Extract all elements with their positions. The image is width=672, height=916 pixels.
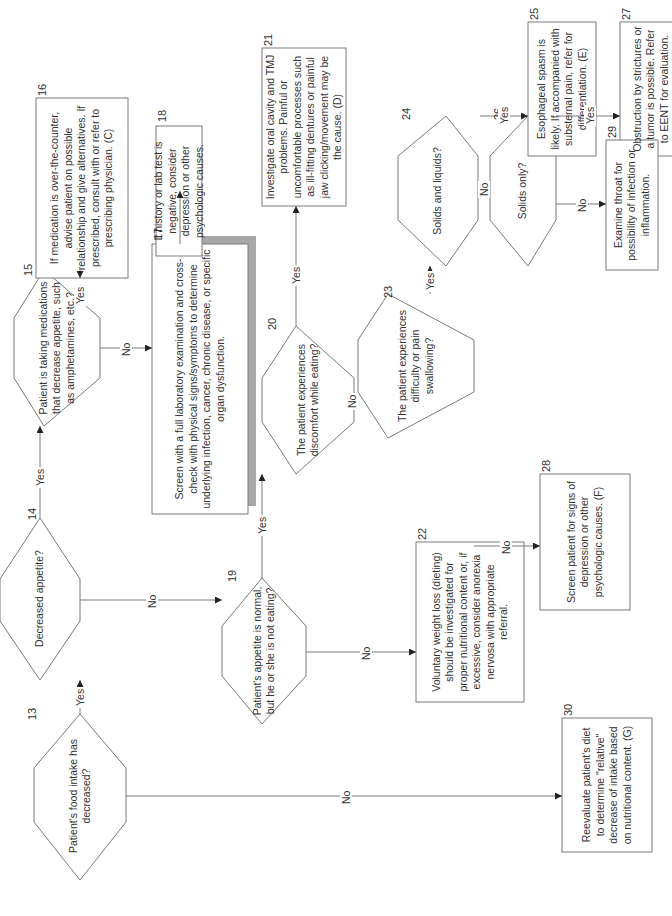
edge-label-20-23: No (346, 393, 358, 410)
node-number-19: 19 (226, 570, 238, 582)
node-number-30: 30 (562, 704, 574, 716)
edge-label-26-29: No (576, 197, 588, 214)
edge-label-14-15: Yes (34, 467, 46, 488)
edge-label-13-14: Yes (74, 687, 86, 708)
edge-label-24-25: Yes (498, 105, 510, 126)
edge-label-15-16: Yes (74, 285, 86, 306)
decision-15-text: Patient is taking medications that decre… (14, 274, 100, 422)
node-number-23: 23 (382, 286, 394, 298)
decision-23-text: The patient experiences difficulty or pa… (358, 298, 474, 434)
decision-20-text: The patient experiences discomfort while… (262, 330, 354, 470)
node-number-28: 28 (540, 460, 552, 472)
node-number-16: 16 (36, 84, 48, 96)
decision-13-text: Patient's food intake has decreased? (34, 716, 126, 876)
node-number-27: 27 (620, 8, 632, 20)
edge-label-13-30: No (340, 789, 352, 806)
edge-label-15-17: No (120, 341, 132, 358)
box-16-text: If medication is over-the-counter, advis… (36, 98, 128, 278)
edge-label-26-27: Yes (584, 105, 596, 126)
decision-26-text: Solids only? (490, 120, 556, 262)
flowchart-canvas: Patient's food intake has decreased? Dec… (0, 0, 672, 916)
node-number-29: 29 (606, 126, 618, 138)
edge-label-20-21: Yes (290, 265, 302, 286)
edge-label-23-28: No (500, 539, 512, 556)
node-number-17: 17 (152, 228, 164, 240)
edge-label-14-19: No (146, 593, 158, 610)
node-number-22: 22 (416, 528, 428, 540)
decision-24-text: Solids and liquids? (398, 120, 478, 262)
node-number-21: 21 (262, 34, 274, 46)
edge-label-19-22: No (360, 645, 372, 662)
node-number-18: 18 (156, 110, 168, 122)
decision-14-text: Decreased appetite? (0, 521, 80, 676)
box-28-text: Screen patient for signs of depression o… (540, 474, 630, 610)
edge-label-19-20: Yes (256, 515, 268, 536)
node-number-13: 13 (26, 708, 38, 720)
box-22-text: Voluntary weight loss (dieting) should b… (416, 542, 524, 702)
node-number-25: 25 (528, 8, 540, 20)
edge-label-24-26: No (478, 181, 490, 198)
box-29-text: Examine throat for possibility of infect… (606, 140, 658, 270)
node-number-20: 20 (266, 318, 278, 330)
node-number-24: 24 (400, 108, 412, 120)
box-30-text: Reevaluate patient's diet to determine "… (562, 718, 652, 852)
node-number-14: 14 (26, 508, 38, 520)
edge-label-23-24: Yes (424, 271, 436, 292)
decision-19-text: Patient's appetite is normal, but he or … (222, 582, 306, 720)
box-21-text: Investigate oral cavity and TMJ problems… (262, 48, 346, 206)
box-27-text: Obstruction by strictures or a tumor is … (620, 22, 672, 156)
node-number-15: 15 (22, 264, 34, 276)
box-17-text: Screen with a full laboratory examinatio… (152, 244, 248, 514)
